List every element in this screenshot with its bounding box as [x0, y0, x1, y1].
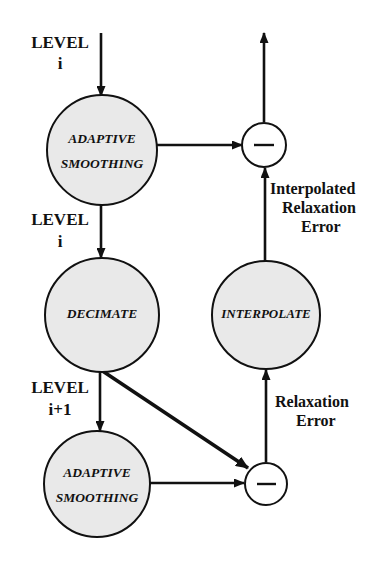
level-i-middle-line-1: LEVEL [31, 210, 89, 229]
label-level-i-top: LEVEL i [31, 33, 89, 73]
decimate-label: DECIMATE [66, 306, 138, 321]
interpolate-label: INTERPOLATE [220, 306, 311, 321]
block-diagram: ADAPTIVE SMOOTHING DECIMATE ADAPTIVE SMO… [0, 0, 386, 565]
label-level-i-middle: LEVEL i [31, 210, 89, 251]
interpolated-relaxation-error-line-1: Interpolated [270, 180, 355, 198]
node-summing-junction-top[interactable] [242, 123, 286, 167]
node-decimate[interactable]: DECIMATE [45, 258, 159, 372]
adaptive-smoothing-bottom-label-line-2: SMOOTHING [56, 490, 139, 505]
node-interpolate[interactable]: INTERPOLATE [212, 261, 320, 369]
relaxation-error-line-2: Error [296, 412, 336, 429]
node-summing-junction-bottom[interactable] [245, 463, 287, 505]
adaptive-smoothing-bottom-circle[interactable] [44, 431, 150, 537]
adaptive-smoothing-bottom-label-line-1: ADAPTIVE [62, 465, 131, 480]
adaptive-smoothing-top-circle[interactable] [47, 95, 157, 205]
label-relaxation-error: Relaxation Error [275, 393, 349, 429]
level-i-plus-1-line-1: LEVEL [31, 378, 89, 397]
level-i-plus-1-line-2: i+1 [49, 400, 72, 419]
label-level-i-plus-1: LEVEL i+1 [31, 378, 89, 419]
label-interpolated-relaxation-error: Interpolated Relaxation Error [270, 180, 356, 235]
adaptive-smoothing-top-label-line-2: SMOOTHING [61, 156, 144, 171]
diagram-canvas: ADAPTIVE SMOOTHING DECIMATE ADAPTIVE SMO… [0, 0, 386, 565]
relaxation-error-line-1: Relaxation [275, 393, 349, 410]
interpolated-relaxation-error-line-3: Error [301, 218, 341, 235]
interpolated-relaxation-error-line-2: Relaxation [282, 199, 356, 216]
adaptive-smoothing-top-label-line-1: ADAPTIVE [67, 131, 136, 146]
level-i-middle-line-2: i [58, 232, 63, 251]
level-i-top-line-1: LEVEL [31, 33, 89, 52]
node-adaptive-smoothing-top[interactable]: ADAPTIVE SMOOTHING [47, 95, 157, 205]
level-i-top-line-2: i [58, 54, 63, 73]
node-adaptive-smoothing-bottom[interactable]: ADAPTIVE SMOOTHING [44, 431, 150, 537]
